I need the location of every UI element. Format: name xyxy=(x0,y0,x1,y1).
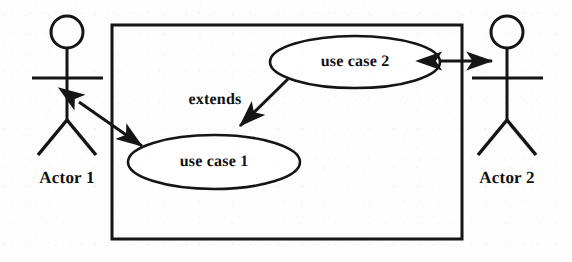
uml-diagram-svg xyxy=(0,0,572,262)
use-case-2-label: use case 2 xyxy=(321,53,390,71)
use-case-diagram-canvas: use case 2 use case 1 extends Actor 1 Ac… xyxy=(0,0,572,262)
actor-2-leg-right xyxy=(507,120,536,155)
extends-label: extends xyxy=(189,91,242,109)
actor-1-leg-left xyxy=(38,120,67,155)
actor-1-leg-right xyxy=(67,120,96,155)
actor-1-figure xyxy=(32,16,103,155)
actor-2-head-icon xyxy=(491,16,523,48)
use-case-1-label: use case 1 xyxy=(180,153,249,171)
actor-1-head-icon xyxy=(51,16,83,48)
actor-2-leg-left xyxy=(478,120,507,155)
actor-2-figure xyxy=(472,16,543,155)
actor-2-label: Actor 2 xyxy=(479,168,534,188)
extends-arrow-usecase2-usecase1[interactable] xyxy=(240,79,288,126)
actor-1-label: Actor 1 xyxy=(39,168,94,188)
